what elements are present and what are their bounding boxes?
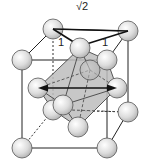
edge-label-right: 1 [102, 37, 108, 48]
sqrt2-label: √2 [76, 1, 88, 12]
sqrt2-triangle [53, 29, 128, 46]
hidden-sphere [80, 60, 100, 80]
fcc-diagram: √2 1 1 [0, 0, 146, 167]
atoms-front [12, 38, 127, 158]
fcc-octahedral-void-svg [0, 0, 146, 167]
edge-label-left: 1 [58, 37, 64, 48]
